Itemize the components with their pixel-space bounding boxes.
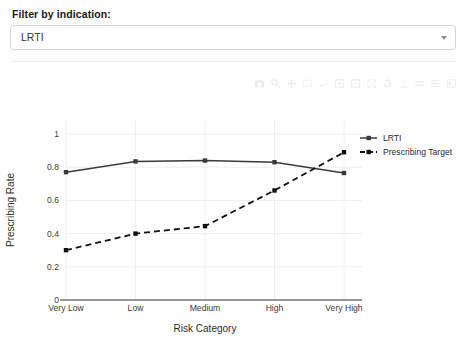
- hover-closest-icon[interactable]: [429, 77, 442, 90]
- zoom-icon[interactable]: [269, 77, 282, 90]
- autoscale-icon[interactable]: [365, 77, 378, 90]
- svg-text:Very Low: Very Low: [48, 303, 84, 313]
- svg-text:Medium: Medium: [190, 303, 221, 313]
- plotly-logo-icon[interactable]: [445, 77, 458, 90]
- legend-item-label[interactable]: LRTI: [383, 133, 401, 143]
- svg-text:Very High: Very High: [325, 303, 362, 313]
- camera-icon[interactable]: [253, 77, 266, 90]
- svg-text:1: 1: [54, 129, 59, 139]
- filter-label: Filter by indication:: [12, 8, 456, 20]
- indication-select[interactable]: LRTI: [10, 25, 456, 50]
- zoom-box-select-icon[interactable]: [301, 77, 314, 90]
- chart-svg[interactable]: 00.20.40.60.81Very LowLowMediumHighVery …: [0, 100, 466, 350]
- spike-lines-icon[interactable]: [397, 77, 410, 90]
- x-axis-title: Risk Category: [174, 323, 237, 334]
- filter-panel: Filter by indication: LRTI: [0, 0, 466, 50]
- legend-item-label[interactable]: Prescribing Target: [383, 147, 453, 157]
- lasso-select-icon[interactable]: [317, 77, 330, 90]
- svg-text:0.8: 0.8: [47, 162, 59, 172]
- panel-divider: [10, 61, 456, 62]
- zoom-in-icon[interactable]: [333, 77, 346, 90]
- reset-axes-icon[interactable]: [381, 77, 394, 90]
- y-axis-title: Prescribing Rate: [5, 173, 16, 247]
- chart-gridlines: [66, 120, 362, 300]
- svg-text:0.2: 0.2: [47, 262, 59, 272]
- indication-select-wrapper: LRTI: [10, 25, 456, 50]
- zoom-out-icon[interactable]: [349, 77, 362, 90]
- indication-select-value: LRTI: [21, 26, 44, 49]
- prescribing-rate-chart[interactable]: 00.20.40.60.81Very LowLowMediumHighVery …: [0, 100, 466, 350]
- chart-legend[interactable]: LRTIPrescribing Target: [360, 133, 453, 157]
- svg-text:Low: Low: [128, 303, 145, 313]
- chart-modebar[interactable]: [236, 75, 458, 91]
- svg-text:0.6: 0.6: [47, 195, 59, 205]
- svg-text:0.4: 0.4: [47, 229, 59, 239]
- hover-compare-icon[interactable]: [413, 77, 426, 90]
- svg-text:High: High: [266, 303, 284, 313]
- pan-icon[interactable]: [285, 77, 298, 90]
